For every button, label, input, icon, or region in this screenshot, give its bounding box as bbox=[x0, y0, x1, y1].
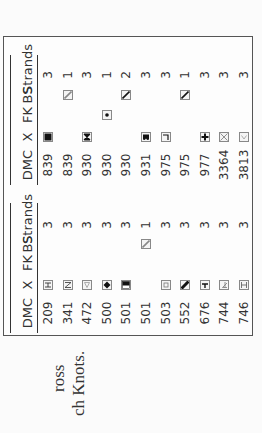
dmc-color-key-table: DMCXFKBSStrands2093341347235003501350115… bbox=[3, 36, 253, 336]
small-square-outline-icon bbox=[161, 280, 171, 290]
dmc-number: 931 bbox=[139, 154, 153, 177]
dmc-number: 975 bbox=[159, 154, 173, 177]
header-dmc: DMC bbox=[20, 150, 36, 180]
strand-count: 3 bbox=[178, 221, 192, 229]
strand-count: 1 bbox=[178, 71, 192, 79]
french-knot-dot-icon bbox=[102, 110, 112, 120]
strand-count: 3 bbox=[159, 71, 173, 79]
dmc-number: 930 bbox=[119, 154, 133, 177]
digit-four-icon bbox=[219, 280, 229, 290]
strand-count: 3 bbox=[159, 221, 173, 229]
filled-square-icon bbox=[43, 132, 53, 142]
strand-count: 3 bbox=[198, 221, 212, 229]
dmc-number: 744 bbox=[217, 302, 231, 325]
strand-count: 3 bbox=[61, 221, 75, 229]
strand-count: 2 bbox=[119, 71, 133, 79]
h-bar-icon bbox=[43, 280, 53, 290]
x-outline-icon bbox=[219, 132, 229, 142]
dmc-number: 839 bbox=[61, 154, 75, 177]
header-rule bbox=[37, 203, 38, 333]
triangle-outline-icon bbox=[82, 280, 92, 290]
dmc-number: 930 bbox=[80, 154, 94, 177]
strand-count: 1 bbox=[61, 71, 75, 79]
dmc-number: 472 bbox=[80, 302, 94, 325]
letter-h-icon bbox=[239, 280, 249, 290]
letter-n-icon bbox=[63, 280, 73, 290]
dmc-number: 676 bbox=[198, 302, 212, 325]
strand-count: 3 bbox=[80, 71, 94, 79]
strand-count: 3 bbox=[237, 71, 251, 79]
strand-count: 3 bbox=[198, 71, 212, 79]
legend-text-line-1: ross bbox=[49, 365, 69, 392]
left-group: DMCXFKBSStrands2093341347235003501350115… bbox=[4, 195, 252, 335]
dmc-number: 341 bbox=[61, 302, 75, 325]
dmc-number: 503 bbox=[159, 302, 173, 325]
dmc-number: 501 bbox=[119, 302, 133, 325]
bowtie-icon bbox=[82, 132, 92, 142]
strand-count: 3 bbox=[237, 221, 251, 229]
dmc-number: 839 bbox=[41, 154, 55, 177]
strand-count: 1 bbox=[139, 221, 153, 229]
strand-count: 3 bbox=[217, 221, 231, 229]
dmc-number: 3364 bbox=[217, 150, 231, 181]
dmc-number: 500 bbox=[100, 302, 114, 325]
strand-count: 3 bbox=[217, 71, 231, 79]
half-filled-square-icon bbox=[121, 280, 131, 290]
header-fk: FK bbox=[20, 255, 36, 271]
header-fk: FK bbox=[20, 107, 36, 123]
strand-count: 1 bbox=[100, 71, 114, 79]
chevron-outline-icon bbox=[239, 132, 249, 142]
plus-filled-icon bbox=[200, 132, 210, 142]
dmc-number: 501 bbox=[139, 302, 153, 325]
strand-count: 3 bbox=[41, 221, 55, 229]
strand-count: 3 bbox=[41, 71, 55, 79]
heart-filled-icon bbox=[141, 132, 151, 142]
strand-count: 3 bbox=[80, 221, 94, 229]
header-dmc: DMC bbox=[20, 298, 36, 328]
thick-diagonal-icon bbox=[180, 280, 190, 290]
corner-l-icon bbox=[161, 132, 171, 142]
backstitch-light-icon bbox=[141, 239, 151, 249]
dmc-number: 209 bbox=[41, 302, 55, 325]
dmc-number: 746 bbox=[237, 302, 251, 325]
right-group: DMCXFKBSStrands8393839193039301930293139… bbox=[4, 37, 252, 187]
dmc-number: 977 bbox=[198, 154, 212, 177]
dmc-number: 552 bbox=[178, 302, 192, 325]
diamond-filled-icon bbox=[102, 280, 112, 290]
dmc-number: 975 bbox=[178, 154, 192, 177]
legend-text-line-2: ch Knots. bbox=[69, 351, 89, 416]
top-rule bbox=[10, 55, 11, 185]
backstitch-light-icon bbox=[63, 90, 73, 100]
strand-count: 3 bbox=[139, 71, 153, 79]
strand-count: 3 bbox=[119, 221, 133, 229]
dmc-number: 3813 bbox=[237, 150, 251, 181]
backstitch-dark-icon bbox=[121, 90, 131, 100]
top-rule bbox=[10, 203, 11, 333]
header-x: X bbox=[20, 133, 36, 142]
dmc-number: 930 bbox=[100, 154, 114, 177]
header-rule bbox=[37, 55, 38, 185]
header-strands: Strands bbox=[20, 194, 36, 244]
header-strands: Strands bbox=[20, 44, 36, 94]
backstitch-dark-icon bbox=[180, 90, 190, 100]
t-shape-icon bbox=[200, 280, 210, 290]
header-x: X bbox=[20, 281, 36, 290]
strand-count: 3 bbox=[100, 221, 114, 229]
